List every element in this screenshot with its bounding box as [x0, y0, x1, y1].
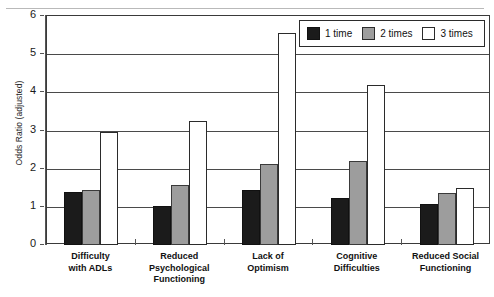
x-axis-label-line: Functioning [127, 274, 232, 286]
bar [153, 206, 171, 245]
bar [171, 185, 189, 245]
y-tick-label: 3 [20, 124, 36, 135]
y-tick-mark [40, 91, 44, 92]
bar [278, 33, 296, 245]
x-axis-label: Reduced SocialFunctioning [393, 251, 494, 274]
x-group-tick [312, 239, 313, 245]
bar [420, 204, 438, 245]
y-tick-label: 5 [20, 47, 36, 58]
bar [456, 188, 474, 245]
gray-swatch [362, 27, 375, 40]
bar [367, 85, 385, 245]
y-tick-mark [40, 15, 44, 16]
y-tick-mark [40, 168, 44, 169]
black-swatch [307, 27, 320, 40]
bar [260, 164, 278, 245]
y-tick-label: 2 [20, 162, 36, 173]
bar [242, 190, 260, 245]
bar [64, 192, 82, 245]
y-tick-mark [40, 130, 44, 131]
bar [189, 121, 207, 245]
y-tick-label: 0 [20, 238, 36, 249]
bar [82, 190, 100, 245]
y-tick-label: 6 [20, 9, 36, 20]
gridline [47, 92, 489, 93]
x-axis-label-line: Functioning [393, 263, 494, 275]
legend-label: 3 times [440, 28, 472, 39]
legend-label: 2 times [380, 28, 412, 39]
y-tick-label: 4 [20, 85, 36, 96]
y-tick-mark [40, 244, 44, 245]
gridline [47, 54, 489, 55]
bar [349, 161, 367, 245]
x-group-tick [135, 239, 136, 245]
bar-chart: Odds Ratio (adjusted) 0123456 Difficulty… [0, 0, 494, 297]
legend-item[interactable]: 2 times [362, 27, 412, 40]
legend-item[interactable]: 3 times [422, 27, 472, 40]
y-tick-mark [40, 53, 44, 54]
x-axis-label-line: Reduced Social [393, 251, 494, 263]
bar [438, 193, 456, 245]
legend-item[interactable]: 1 time [307, 27, 352, 40]
x-group-tick [401, 239, 402, 245]
gridline [47, 131, 489, 132]
plot-area [46, 15, 490, 244]
y-tick-mark [40, 206, 44, 207]
bar [331, 198, 349, 245]
legend-label: 1 time [325, 28, 352, 39]
white-swatch [422, 27, 435, 40]
y-tick-label: 1 [20, 200, 36, 211]
bar [100, 132, 118, 245]
legend: 1 time2 times3 times [299, 20, 485, 47]
x-group-tick [224, 239, 225, 245]
